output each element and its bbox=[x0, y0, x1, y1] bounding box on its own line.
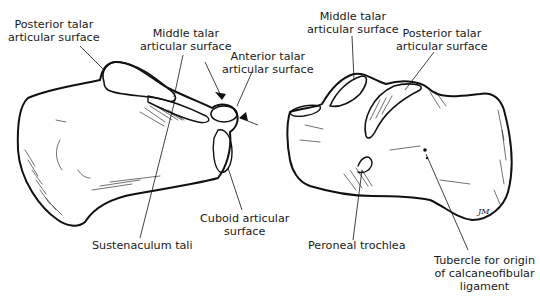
label-left-posterior-talar-surface: Posterior talar articular surface bbox=[8, 18, 100, 44]
label-right-peroneal-trochlea: Peroneal trochlea bbox=[308, 239, 406, 252]
label-left-anterior-talar-surface: Anterior talar articular surface bbox=[222, 50, 314, 76]
label-left-sustentaculum-tali: Sustenaculum tali bbox=[92, 239, 193, 252]
label-left-middle-talar-surface: Middle talar articular surface bbox=[140, 27, 232, 53]
artist-signature: JM bbox=[476, 207, 490, 216]
label-right-calcaneofibular-tubercle: Tubercle for origin of calcaneofibular l… bbox=[434, 254, 535, 293]
label-right-middle-talar-surface: Middle talar articular surface bbox=[307, 10, 399, 36]
label-right-posterior-talar-surface: Posterior talar articular surface bbox=[396, 27, 488, 53]
label-left-cuboid-surface: Cuboid articular surface bbox=[200, 212, 289, 238]
left-calcaneus-drawing bbox=[18, 62, 238, 226]
right-calcaneus-drawing bbox=[287, 74, 511, 220]
